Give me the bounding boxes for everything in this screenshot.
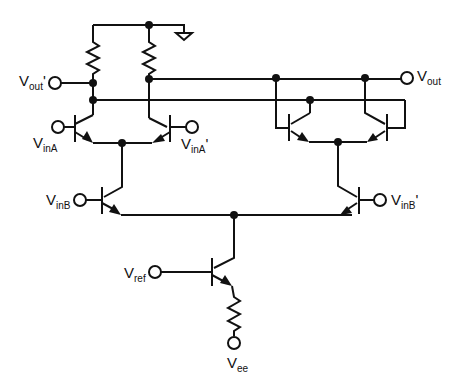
top-rail xyxy=(93,21,184,38)
vinb-prime-terminal xyxy=(374,194,386,206)
circuit-diagram: Vout' Vout VinA VinA' VinB VinB' Vref Ve… xyxy=(0,0,459,387)
transistor-q3 xyxy=(276,78,310,142)
vout-prime-terminal xyxy=(49,77,61,89)
label-vina-prime: VinA' xyxy=(181,136,208,155)
vinb-terminal xyxy=(74,194,86,206)
label-vref: Vref xyxy=(124,265,146,284)
vout-terminal xyxy=(401,72,413,84)
label-vinb-prime: VinB' xyxy=(391,192,418,211)
label-vinb: VinB xyxy=(46,192,70,211)
transistor-q7 xyxy=(212,258,232,286)
vina-terminal xyxy=(52,121,64,133)
label-vina: VinA xyxy=(33,135,57,154)
vref-terminal xyxy=(149,266,161,278)
transistor-q2 xyxy=(149,115,170,143)
transistor-q4 xyxy=(365,78,387,142)
vee-terminal xyxy=(228,337,240,349)
resistor-left-icon xyxy=(87,38,99,80)
resistor-bottom-icon xyxy=(228,286,240,336)
resistor-right-icon xyxy=(143,38,155,80)
label-vee: Vee xyxy=(227,355,248,374)
transistor-q5 xyxy=(102,187,352,215)
label-vout: Vout xyxy=(417,68,441,87)
transistor-q1 xyxy=(75,100,149,143)
ground-icon xyxy=(149,25,192,40)
transistor-q6 xyxy=(340,187,359,215)
vina-prime-terminal xyxy=(186,121,198,133)
label-vout-prime: Vout' xyxy=(19,73,46,92)
